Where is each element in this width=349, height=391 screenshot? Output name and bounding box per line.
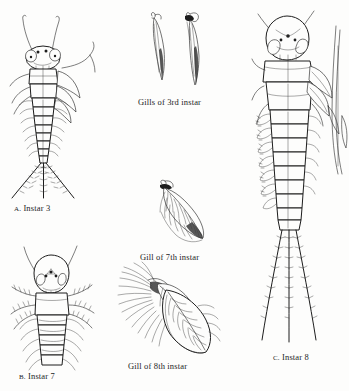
figure-instar-3-nymph bbox=[2, 8, 120, 198]
illustration-plate: A. Instar 3 bbox=[0, 0, 349, 391]
caption-instar-3: A. Instar 3 bbox=[14, 203, 50, 213]
caption-instar-7-text: Instar 7 bbox=[28, 371, 55, 381]
gill-3rd-left bbox=[151, 13, 164, 80]
caption-instar-8-text: Instar 8 bbox=[282, 352, 309, 362]
figure-gill-8th-instar bbox=[108, 262, 224, 360]
figure-instar-7-nymph bbox=[4, 243, 112, 371]
caption-instar-8-letter: C. bbox=[273, 354, 280, 362]
figure-instar-8-nymph bbox=[252, 6, 349, 346]
figure-gills-3rd-instar bbox=[140, 8, 220, 93]
caption-gills-3rd-instar: Gills of 3rd instar bbox=[138, 97, 201, 107]
caption-gill-7th-instar: Gill of 7th instar bbox=[140, 252, 199, 262]
caption-instar-3-text: Instar 3 bbox=[23, 203, 50, 213]
caption-instar-7-letter: B. bbox=[19, 373, 26, 381]
caption-gill-8th-instar: Gill of 8th instar bbox=[128, 361, 187, 371]
caption-instar-3-letter: A. bbox=[14, 205, 21, 213]
gill-3rd-right bbox=[185, 13, 199, 85]
caption-instar-7: B. Instar 7 bbox=[19, 371, 55, 381]
figure-gill-7th-instar bbox=[148, 178, 220, 252]
caption-instar-8: C. Instar 8 bbox=[273, 352, 309, 362]
